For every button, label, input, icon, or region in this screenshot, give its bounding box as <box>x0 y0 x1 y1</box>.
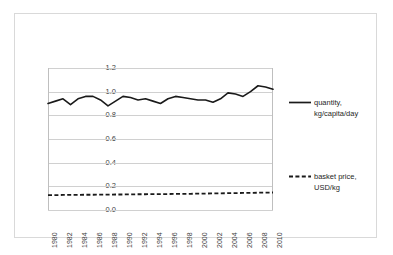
series-line-basket-price <box>48 192 273 195</box>
x-axis-tick-label: 2010 <box>276 232 283 248</box>
x-axis-tick-label: 2000 <box>201 232 208 248</box>
legend-entry-quantity: quantity, kg/capita/day <box>289 98 375 120</box>
series-line-quantity <box>48 86 273 106</box>
x-axis-tick-label: 1992 <box>141 232 148 248</box>
chart-legend: quantity, kg/capita/day basket price, US… <box>289 68 375 210</box>
series-container <box>48 68 273 210</box>
legend-label-basket-price: basket price, USD/kg <box>314 172 357 194</box>
x-axis-tick-label: 1982 <box>66 232 73 248</box>
chart-figure: 0.00.20.40.60.81.01.2 198019821984198619… <box>14 13 377 238</box>
x-axis-tick-label: 1994 <box>156 232 163 248</box>
x-axis-tick-labels: 1980198219841986198819901992199419961998… <box>48 212 273 252</box>
plot-area <box>48 68 273 210</box>
x-axis-tick-label: 1998 <box>186 232 193 248</box>
x-axis-tick-label: 2008 <box>261 232 268 248</box>
x-axis-tick-label: 1996 <box>171 232 178 248</box>
x-axis-tick-label: 2002 <box>216 232 223 248</box>
solid-line-icon <box>289 98 311 107</box>
x-axis-tick-label: 2006 <box>246 232 253 248</box>
x-axis-tick-label: 1984 <box>81 232 88 248</box>
x-axis-tick-label: 2004 <box>231 232 238 248</box>
x-axis-tick-label: 1980 <box>51 232 58 248</box>
x-axis-tick-label: 1990 <box>126 232 133 248</box>
dashed-line-icon <box>289 172 311 181</box>
gridline <box>48 210 273 211</box>
x-axis-tick-label: 1986 <box>96 232 103 248</box>
legend-entry-basket-price: basket price, USD/kg <box>289 172 375 194</box>
x-axis-tick-label: 1988 <box>111 232 118 248</box>
legend-label-quantity: quantity, kg/capita/day <box>314 98 358 120</box>
